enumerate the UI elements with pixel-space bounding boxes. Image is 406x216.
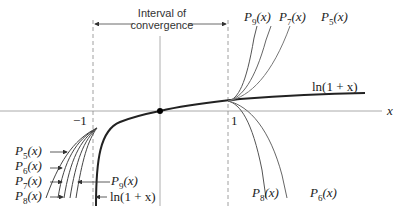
- label-P7-top: P7(x): [279, 10, 306, 27]
- x-axis-label: x: [387, 104, 393, 117]
- label-ln-right: ln(1 + x): [312, 80, 358, 93]
- label-P9-top: P9(x): [244, 10, 271, 27]
- taylor-polynomial-diagram: Interval of convergence x −1 1 P9(x) P7(…: [0, 0, 406, 216]
- origin-point: [157, 108, 163, 114]
- plot-canvas: [0, 0, 406, 216]
- interval-label: Interval of convergence: [120, 7, 204, 31]
- label-P8-bottom: P8(x): [252, 186, 279, 203]
- curve-P5-right: [228, 26, 290, 101]
- tick-pos1: 1: [231, 114, 238, 127]
- curve-P9-right: [228, 26, 257, 101]
- label-P6-bottom: P6(x): [310, 186, 337, 203]
- label-P5-top: P5(x): [321, 10, 348, 27]
- label-ln-left: ln(1 + x): [110, 190, 156, 203]
- tick-neg1: −1: [73, 114, 87, 127]
- curve-P9-left: [76, 128, 97, 198]
- label-P8-left: P8(x): [15, 189, 42, 206]
- curve-P7-right: [228, 26, 271, 101]
